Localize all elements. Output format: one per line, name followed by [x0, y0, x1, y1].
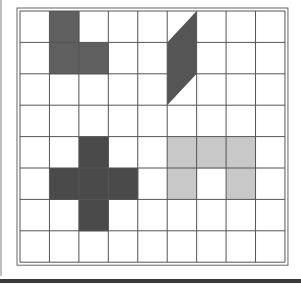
bottom-page-rule [0, 279, 301, 283]
plus-shape [49, 137, 138, 232]
shapes-layer [49, 11, 256, 231]
shape-grid-figure [0, 0, 301, 284]
parallelogram [167, 11, 196, 105]
